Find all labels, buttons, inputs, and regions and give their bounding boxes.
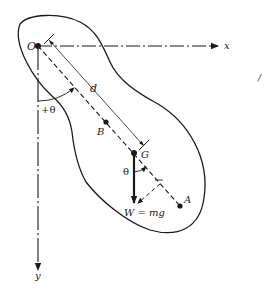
label-x-axis: x — [224, 40, 230, 51]
angle-arc-g — [134, 167, 146, 172]
label-origin: O — [27, 40, 36, 53]
label-angle-g: θ — [123, 166, 129, 177]
label-angle-positive: +θ — [41, 104, 55, 115]
label-point-g: G — [141, 149, 149, 160]
compound-pendulum-diagram: O x y d +θ B G θ A W = mg / — [0, 0, 275, 292]
label-point-b: B — [96, 126, 104, 137]
point-g — [131, 150, 137, 156]
label-y-axis: y — [34, 270, 41, 281]
stray-mark: / — [257, 73, 262, 83]
label-weight: W = mg — [124, 207, 165, 218]
point-a — [177, 203, 182, 208]
label-point-a: A — [183, 194, 191, 205]
label-distance: d — [90, 82, 97, 95]
centerline-o-a — [38, 46, 180, 206]
body-outline — [18, 15, 205, 232]
weight-component-dashed — [138, 184, 160, 203]
point-b — [103, 119, 108, 124]
